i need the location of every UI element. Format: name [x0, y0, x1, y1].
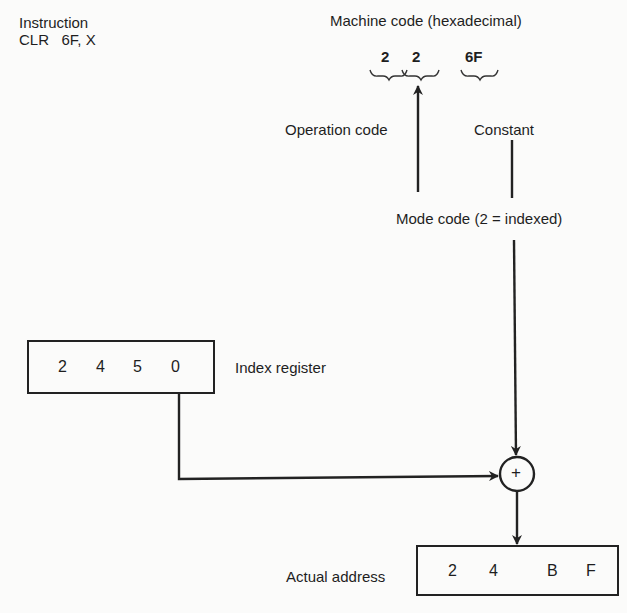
diagram-wires: [0, 0, 627, 613]
actual-address-digit: 4: [489, 562, 498, 580]
index-register-digit: 5: [133, 358, 142, 376]
actual-address-box: 2 4 B F: [416, 545, 619, 596]
index-register-digit: 2: [58, 358, 67, 376]
actual-address-digit: B: [547, 562, 558, 580]
index-register-box: 2 4 5 0: [27, 340, 215, 394]
brace-opcode-icon: [402, 70, 439, 80]
index-to-adder-arrow: [179, 393, 498, 479]
brace-constant-icon: [461, 70, 498, 80]
brace-icons: [370, 70, 498, 80]
index-register-digit: 4: [96, 358, 105, 376]
constant-to-adder-arrow: [514, 240, 516, 455]
adder-symbol: +: [511, 464, 521, 481]
actual-address-digit: F: [586, 562, 596, 580]
brace-mode-icon: [370, 70, 407, 80]
index-register-digit: 0: [171, 358, 180, 376]
actual-address-digit: 2: [448, 562, 457, 580]
